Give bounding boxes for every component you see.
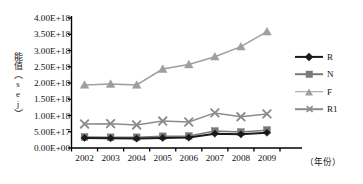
x-axis-title: （年份） xyxy=(305,155,341,167)
x-tick-label: 2008 xyxy=(232,153,250,163)
legend-label: R xyxy=(327,52,333,62)
x-tick-label: 2002 xyxy=(75,153,93,163)
triangle-marker-icon xyxy=(305,88,313,95)
x-tick-label: 2005 xyxy=(154,153,172,163)
legend-swatch-r1: ✕ xyxy=(295,103,323,115)
legend-item-r[interactable]: R xyxy=(295,48,361,66)
legend-item-f[interactable]: F xyxy=(295,83,361,101)
x-tick-label: 2007 xyxy=(206,153,224,163)
emergy-line-chart: 能值（sej） 4.00E+183.50E+183.00E+182.50E+18… xyxy=(0,0,363,184)
diamond-marker-icon xyxy=(305,53,313,61)
legend-label: N xyxy=(327,69,334,79)
square-marker-icon xyxy=(306,71,313,78)
x-marker-icon: ✕ xyxy=(305,104,314,115)
x-tick-label: 2009 xyxy=(258,153,276,163)
legend-label: F xyxy=(327,87,332,97)
legend-label: R1 xyxy=(327,104,338,114)
chart-legend: RNF✕R1 xyxy=(295,48,361,118)
legend-swatch-f xyxy=(295,86,323,98)
legend-item-r1[interactable]: ✕R1 xyxy=(295,101,361,119)
x-tick-label: 2004 xyxy=(127,153,145,163)
legend-swatch-r xyxy=(295,51,323,63)
legend-swatch-n xyxy=(295,68,323,80)
legend-item-n[interactable]: N xyxy=(295,66,361,84)
x-tick-label: 2006 xyxy=(180,153,198,163)
x-tick-label: 2003 xyxy=(101,153,119,163)
